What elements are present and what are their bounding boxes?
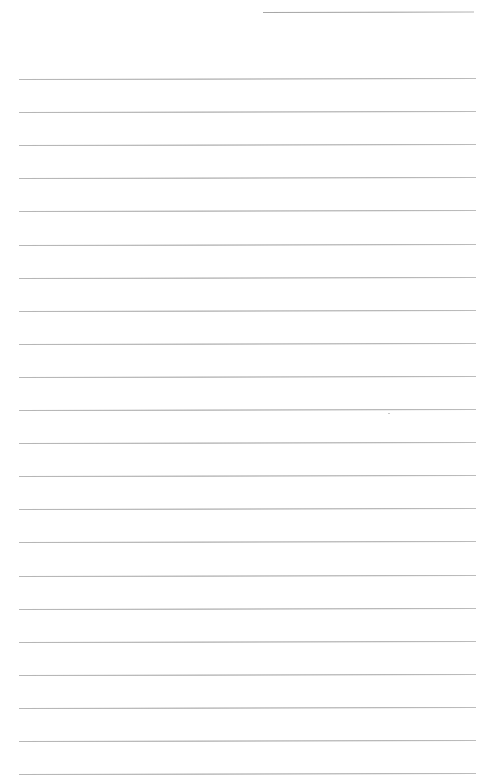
paper-speck (388, 413, 390, 414)
header-date-line (263, 12, 474, 13)
ruled-line (19, 409, 476, 411)
ruled-line (19, 210, 476, 212)
ruled-line (19, 177, 476, 179)
ruled-line (19, 641, 476, 643)
ruled-line (19, 111, 476, 113)
ruled-line (19, 674, 476, 676)
ruled-line (19, 740, 476, 742)
lined-paper-page (0, 0, 491, 784)
ruled-line (19, 78, 476, 80)
ruled-line (19, 508, 476, 510)
ruled-line (19, 244, 476, 246)
ruled-line (19, 442, 476, 444)
ruled-line (19, 773, 476, 775)
ruled-line (19, 541, 476, 543)
ruled-line (19, 608, 476, 610)
ruled-line (19, 475, 476, 477)
ruled-line (19, 310, 476, 312)
ruled-line (19, 575, 476, 577)
ruled-line (19, 277, 476, 279)
ruled-line (19, 376, 476, 378)
ruled-line (19, 144, 476, 146)
ruled-line (19, 343, 476, 345)
ruled-line (19, 707, 476, 709)
